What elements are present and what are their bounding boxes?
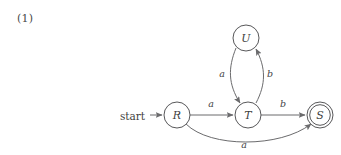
figure-root: (1) start a b a b — [0, 0, 341, 155]
edge-U-to-T: a — [219, 48, 240, 103]
state-node-U[interactable]: U — [233, 25, 259, 51]
start-label: start — [120, 110, 146, 122]
edge-T-to-U-path — [256, 49, 264, 103]
edge-label-R-to-T: a — [208, 98, 214, 109]
state-node-T[interactable]: T — [235, 102, 261, 128]
edge-U-to-T-path — [230, 48, 240, 103]
state-label-U: U — [241, 32, 251, 45]
edge-T-to-S: b — [261, 98, 305, 116]
start-arrow-group: start — [120, 110, 162, 122]
automaton-diagram: start a b a b a U — [0, 0, 341, 155]
edge-label-U-to-T: a — [219, 68, 225, 79]
state-label-R: R — [172, 109, 181, 122]
state-node-R[interactable]: R — [164, 102, 190, 128]
edge-label-T-to-S: b — [280, 98, 286, 109]
state-label-S: S — [316, 109, 324, 122]
edge-label-T-to-U: b — [267, 68, 273, 79]
edge-R-to-T: a — [190, 98, 233, 116]
edge-T-to-U: b — [256, 49, 273, 103]
edge-label-R-to-S: a — [241, 139, 247, 150]
state-node-S[interactable]: S — [307, 102, 333, 128]
